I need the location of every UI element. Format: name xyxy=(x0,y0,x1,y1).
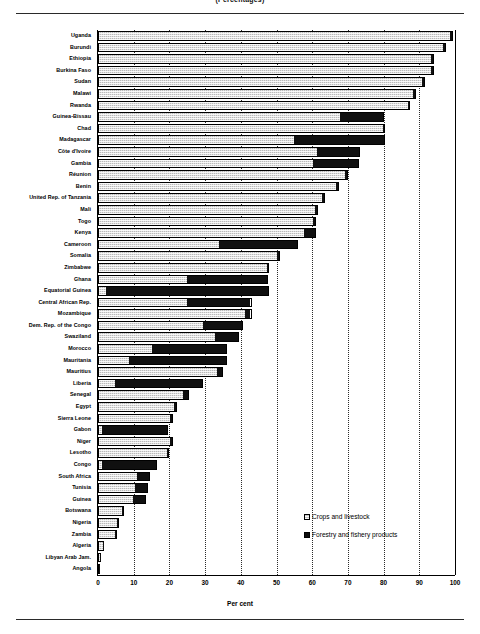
category-label: Zimbabwe xyxy=(64,263,91,273)
plot-right-border xyxy=(455,30,456,575)
stacked-bar xyxy=(98,564,100,574)
bar-row xyxy=(98,54,434,64)
bar-row xyxy=(98,124,385,134)
bar-row xyxy=(98,298,252,308)
bar-row xyxy=(98,112,384,122)
bar-segment-forestry xyxy=(217,368,222,376)
category-label: Sierra Leone xyxy=(58,414,91,424)
category-label: Ghana xyxy=(74,275,91,285)
bar-segment-crops xyxy=(99,276,187,284)
bar-row xyxy=(98,460,157,470)
category-label: Zambia xyxy=(72,530,91,540)
category-label: Burkina Faso xyxy=(56,66,91,76)
stacked-bar xyxy=(98,240,298,250)
bar-segment-crops xyxy=(99,229,304,237)
stacked-bar xyxy=(98,506,124,516)
bar-segment-forestry xyxy=(431,67,433,75)
bar-row xyxy=(98,101,410,111)
category-label: Uganda xyxy=(71,31,91,41)
category-label: Cameroon xyxy=(64,240,91,250)
bar-row xyxy=(98,321,243,331)
bar-segment-crops xyxy=(99,67,431,75)
category-label: Somalia xyxy=(70,251,91,261)
bar-segment-crops xyxy=(99,484,135,492)
bar-row xyxy=(98,437,173,447)
bar-row xyxy=(98,356,227,366)
bar-segment-crops xyxy=(99,252,277,260)
legend-swatch-crops-icon xyxy=(304,514,310,520)
stacked-bar xyxy=(98,101,410,111)
bar-segment-forestry xyxy=(135,484,147,492)
bar-segment-crops xyxy=(99,403,174,411)
category-label: Senegal xyxy=(70,390,91,400)
bar-segment-crops xyxy=(99,183,336,191)
stacked-bar xyxy=(98,263,269,273)
bar-row xyxy=(98,518,119,528)
bar-segment-forestry xyxy=(187,299,250,307)
bar-segment-crops xyxy=(99,380,115,388)
bar-segment-crops xyxy=(99,113,340,121)
bar-segment-crops xyxy=(99,287,106,295)
bar-segment-forestry xyxy=(215,333,238,341)
stacked-bar xyxy=(98,31,453,41)
bar-segment-forestry xyxy=(170,438,172,446)
bar-segment-forestry xyxy=(187,276,266,284)
stacked-bar xyxy=(98,309,252,319)
x-tick-80: 80 xyxy=(380,579,387,586)
x-tick-0: 0 xyxy=(96,579,100,586)
plot-area xyxy=(98,30,455,575)
stacked-bar xyxy=(98,356,227,366)
bar-row xyxy=(98,147,360,157)
legend-swatch-forestry-icon xyxy=(304,532,310,538)
stacked-bar xyxy=(98,251,280,261)
bar-segment-forestry xyxy=(267,264,269,272)
x-axis-title: Per cent xyxy=(0,600,480,607)
bar-segment-crops xyxy=(99,32,450,40)
bar-segment-crops xyxy=(99,241,219,249)
bar-segment-forestry xyxy=(313,160,357,168)
category-label: Egypt xyxy=(76,402,91,412)
category-label: Rwanda xyxy=(70,101,91,111)
bar-segment-forestry xyxy=(174,403,176,411)
chart-legend: Crops and livestock Forestry and fishery… xyxy=(304,513,464,549)
stacked-bar xyxy=(98,135,385,145)
category-label: Togo xyxy=(78,217,91,227)
bar-segment-forestry xyxy=(117,519,118,527)
category-label: Mozambique xyxy=(58,309,91,319)
category-label: Angola xyxy=(72,564,91,574)
bar-segment-crops xyxy=(99,507,122,515)
bar-segment-crops xyxy=(99,333,215,341)
bar-segment-crops xyxy=(99,322,203,330)
category-label: South Africa xyxy=(59,472,91,482)
bar-segment-crops xyxy=(99,78,422,86)
category-label: Gabon xyxy=(74,425,91,435)
category-label: Niger xyxy=(77,437,91,447)
bar-row xyxy=(98,530,117,540)
bar-segment-crops xyxy=(99,194,322,202)
bar-segment-forestry xyxy=(336,183,338,191)
bar-segment-forestry xyxy=(133,496,145,504)
stacked-bar xyxy=(98,112,384,122)
stacked-bar xyxy=(98,541,104,551)
category-label: United Rep. of Tanzania xyxy=(29,193,91,203)
bar-row xyxy=(98,251,280,261)
stacked-bar xyxy=(98,344,227,354)
bar-segment-crops xyxy=(99,368,217,376)
stacked-bar xyxy=(98,379,203,389)
bar-segment-forestry xyxy=(115,531,116,539)
stacked-bar xyxy=(98,66,434,76)
bar-segment-crops xyxy=(99,345,152,353)
x-tick-40: 40 xyxy=(237,579,244,586)
stacked-bar xyxy=(98,367,223,377)
stacked-bar xyxy=(98,553,101,563)
bar-segment-forestry xyxy=(443,44,445,52)
legend-label-forestry: Forestry and fishery products xyxy=(312,531,397,538)
category-label: Réunion xyxy=(69,170,91,180)
chart-title: (Percentages) xyxy=(0,0,480,4)
bar-segment-crops xyxy=(99,125,383,133)
category-label: Congo xyxy=(74,460,91,470)
bar-segment-crops xyxy=(99,496,133,504)
bar-segment-crops xyxy=(99,136,294,144)
stacked-bar xyxy=(98,425,168,435)
bar-segment-crops xyxy=(99,264,267,272)
